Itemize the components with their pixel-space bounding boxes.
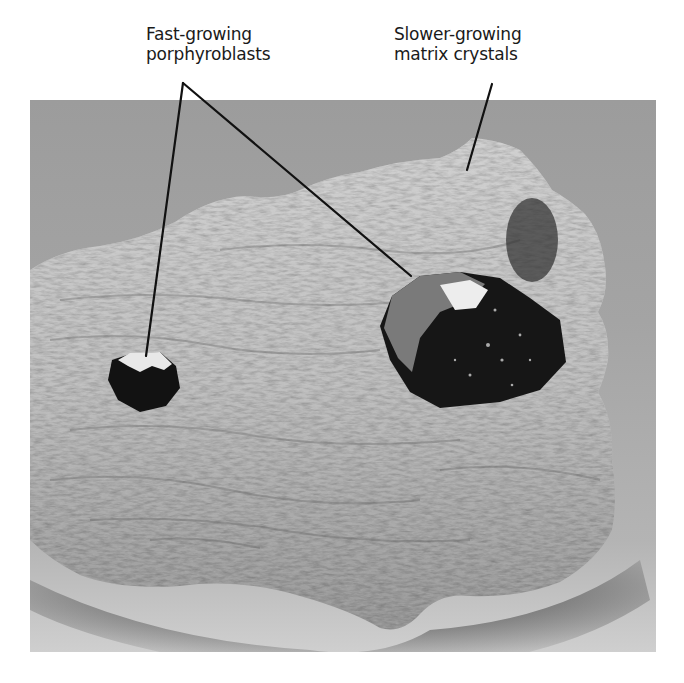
label-fast-line-2: porphyroblasts [146,44,270,64]
label-fast-line-1: Fast-growing [146,24,270,44]
label-slow-line-1: Slower-growing [394,24,522,44]
label-slow-line-2: matrix crystals [394,44,522,64]
label-fast-growing-porphyroblasts: Fast-growing porphyroblasts [146,24,270,64]
label-slower-growing-matrix-crystals: Slower-growing matrix crystals [394,24,522,64]
rock-photograph [30,100,656,652]
